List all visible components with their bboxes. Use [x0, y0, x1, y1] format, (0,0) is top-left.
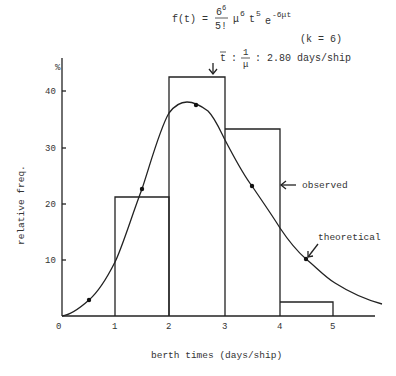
formula-k-note: (k = 6)	[300, 34, 342, 45]
bar-4-5	[280, 302, 333, 316]
chart: f(t) = 6 6 5! μ 6 t 5 e -6μt (k = 6) t :…	[0, 0, 396, 376]
x-tick-5: 5	[330, 322, 335, 332]
theoretical-points	[87, 103, 308, 302]
y-unit-label: %	[55, 63, 61, 73]
formula-mean-value: : 2.80 days/ship	[255, 53, 351, 64]
theoretical-annotation: theoretical	[308, 232, 381, 257]
y-tick-labels: % 40 30 20 10	[45, 63, 61, 266]
formula-mean-den: μ	[243, 60, 249, 70]
x-tick-3: 3	[222, 322, 227, 332]
y-tick-10: 10	[45, 256, 56, 266]
x-tick-labels: 0 1 2 3 4 5	[56, 322, 335, 332]
arrow-left-icon	[281, 181, 296, 189]
formula-mean-num: 1	[243, 48, 248, 58]
formula-coef-den: 5!	[215, 21, 227, 32]
formula-t: t	[249, 14, 255, 25]
y-tick-40: 40	[45, 87, 56, 97]
formula-lhs: f(t) =	[172, 14, 208, 25]
formula: f(t) = 6 6 5! μ 6 t 5 e -6μt (k = 6) t :…	[172, 4, 351, 70]
mean-arrow-icon	[209, 63, 217, 74]
formula-e: e	[265, 16, 271, 27]
formula-t-exp: 5	[256, 9, 261, 18]
y-axis-title: relative freq.	[16, 165, 27, 245]
bar-2-3	[169, 77, 225, 316]
observed-annotation: observed	[281, 180, 348, 191]
bar-1-2	[115, 197, 169, 316]
bar-3-4	[225, 129, 280, 316]
observed-label: observed	[302, 180, 348, 191]
y-tick-20: 20	[45, 200, 56, 210]
y-tick-30: 30	[45, 144, 56, 154]
arrow-diagonal-icon	[308, 244, 318, 257]
x-tick-2: 2	[166, 322, 171, 332]
formula-e-exp: -6μt	[272, 10, 291, 19]
observed-histogram	[115, 77, 333, 316]
formula-mu-exp: 6	[240, 9, 245, 18]
x-tick-0: 0	[56, 322, 61, 332]
formula-coef-num-exp: 6	[222, 4, 226, 12]
x-axis-title: berth times (days/ship)	[151, 350, 282, 361]
formula-mean-sep: :	[231, 53, 237, 64]
formula-mu: μ	[233, 14, 239, 25]
formula-mean-tbar: t	[220, 53, 226, 64]
x-tick-1: 1	[112, 322, 117, 332]
theoretical-curve	[62, 102, 382, 316]
theoretical-label: theoretical	[318, 232, 381, 243]
x-tick-4: 4	[277, 322, 282, 332]
